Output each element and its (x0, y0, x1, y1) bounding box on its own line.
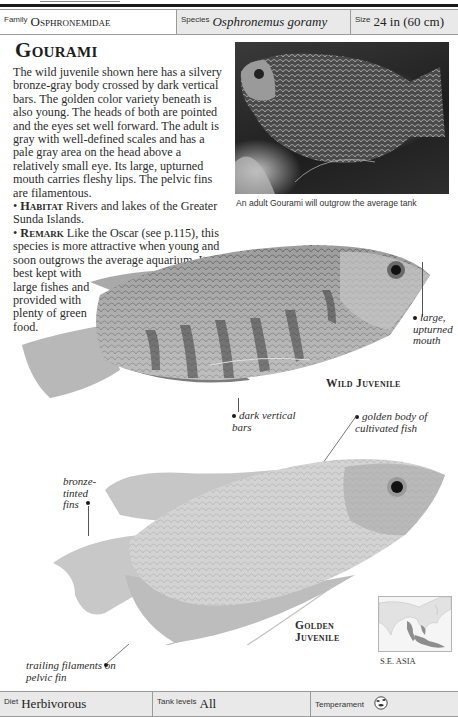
tank-levels-label: Tank levels (157, 697, 197, 706)
tank-levels-value: All (200, 696, 217, 712)
diet-cell: Diet Herbivorous (0, 692, 153, 716)
top-rule (0, 4, 458, 7)
page-title: Gourami (15, 38, 98, 63)
temperament-fish-icon (373, 696, 389, 710)
bullet-icon: • (13, 199, 17, 213)
diet-value: Herbivorous (21, 696, 86, 712)
fins-leader-line (88, 506, 89, 536)
callout-golden-body: golden body of cultivated fish (355, 411, 450, 434)
species-value: Osphronemus goramy (212, 14, 327, 30)
temperament-cell: Temperament (311, 692, 458, 716)
callout-dot-icon (232, 414, 236, 418)
family-value: Osphronemidae (31, 14, 111, 30)
adult-fish-image (235, 42, 449, 194)
callout-mouth: large, upturned mouth (413, 312, 458, 347)
bullet-icon: • (13, 226, 17, 240)
diet-label: Diet (4, 697, 18, 706)
habitat-label: Habitat (20, 199, 63, 213)
tank-levels-cell: Tank levels All (153, 692, 311, 716)
top-faint-rule (40, 1, 120, 2)
adult-gourami-photo (235, 42, 449, 194)
footer-info-bar: Diet Herbivorous Tank levels All Tempera… (0, 691, 458, 717)
map-region-label: S.E. ASIA (380, 656, 416, 666)
golden-juvenile-label: Golden Juvenile (295, 619, 340, 643)
callout-bronze-fins: bronze-tinted fins (63, 476, 101, 511)
callout-bars: dark vertical bars (232, 410, 312, 433)
callout-dot-icon (86, 501, 90, 505)
photo-caption: An adult Gourami will outgrow the averag… (236, 198, 456, 208)
family-cell: Family Osphronemidae (0, 10, 177, 34)
header-info-bar: Family Osphronemidae Species Osphronemus… (0, 9, 458, 35)
habitat-paragraph: • Habitat Rivers and lakes of the Greate… (13, 200, 223, 227)
size-value: 24 in (60 cm) (374, 14, 444, 30)
size-cell: Size 24 in (60 cm) (351, 10, 458, 34)
species-label: Species (181, 15, 209, 24)
callout-dot-icon (413, 316, 417, 320)
range-map (378, 596, 452, 652)
mouth-leader-line (422, 262, 423, 317)
remark-label: Remark (20, 226, 63, 240)
wild-juvenile-label: Wild Juvenile (326, 377, 401, 389)
family-label: Family (4, 15, 28, 24)
filament-leader-line (104, 640, 134, 666)
description-paragraph: The wild juvenile shown here has a silve… (13, 66, 223, 200)
size-label: Size (355, 15, 371, 24)
temperament-label: Temperament (315, 700, 364, 709)
range-map-icon (379, 597, 451, 651)
species-cell: Species Osphronemus goramy (177, 10, 351, 34)
